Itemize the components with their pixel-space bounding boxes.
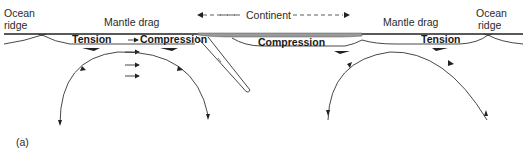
label-ocean-ridge-left-2: ridge (4, 19, 28, 31)
shear-arrow-4 (432, 48, 448, 51)
label-ocean-ridge-left-1: Ocean (4, 7, 35, 19)
label-compression-center: Compression (258, 36, 325, 48)
continent-arrowhead-left (197, 12, 203, 18)
label-mantle-drag-left: Mantle drag (104, 16, 160, 28)
shear-arrow-2 (160, 48, 178, 51)
label-panel: (a) (16, 136, 29, 148)
cell-right-arrow-down (326, 110, 330, 116)
cell-right-arrow-right (448, 60, 454, 66)
label-mantle-drag-right: Mantle drag (383, 16, 439, 28)
shear-arrow-1 (82, 48, 100, 51)
cell-right-arrow-up (484, 110, 488, 116)
label-continent: Continent (246, 9, 291, 21)
label-compression-left: Compression (140, 33, 207, 45)
convection-cell-left (60, 52, 208, 124)
cell-left-arrow-up (58, 120, 62, 126)
plate-tectonics-diagram: Ocean ridge Mantle drag Continent Mantle… (0, 0, 527, 155)
label-tension-right: Tension (421, 33, 460, 45)
continent-arrowhead-right (344, 12, 350, 18)
label-ocean-ridge-right-1: Ocean (476, 7, 507, 19)
cell-left-arrow-down (206, 114, 210, 120)
diagram-canvas: Ocean ridge Mantle drag Continent Mantle… (0, 0, 527, 155)
shear-arrow-3 (334, 51, 350, 54)
label-tension-left: Tension (72, 33, 111, 45)
label-ocean-ridge-right-2: ridge (478, 19, 502, 31)
